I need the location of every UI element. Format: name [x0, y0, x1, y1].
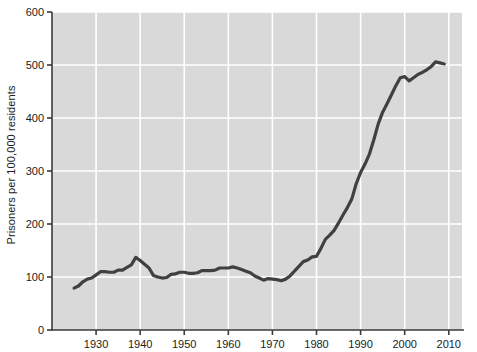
line-chart-svg	[0, 0, 477, 352]
plot-area	[0, 0, 477, 352]
chart-figure: Prisoners per 100,000 residents 01002003…	[0, 0, 477, 352]
